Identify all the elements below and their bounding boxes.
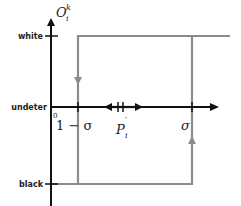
down-arrow-icon bbox=[74, 77, 82, 85]
y-axis-arrow-icon bbox=[47, 18, 55, 26]
undeter-label: undeter bbox=[11, 103, 47, 112]
y-axis-title-sub: i bbox=[66, 14, 69, 23]
p-label: P bbox=[115, 122, 125, 137]
p-interval bbox=[104, 102, 143, 112]
x-axis-arrow-icon bbox=[210, 103, 219, 111]
p-label-sub: i bbox=[125, 131, 128, 140]
hysteresis-diagram: white undeter black 0 O k i 1 − σ P ′ i … bbox=[0, 0, 241, 206]
y-axis-title-sup: k bbox=[66, 3, 71, 12]
one-minus-sigma-label: 1 − σ bbox=[56, 118, 92, 133]
up-arrow-icon bbox=[188, 136, 196, 144]
sigma-label: σ bbox=[181, 118, 191, 133]
white-label: white bbox=[18, 32, 44, 41]
p-label-prime: ′ bbox=[125, 116, 127, 126]
black-label: black bbox=[19, 180, 44, 189]
